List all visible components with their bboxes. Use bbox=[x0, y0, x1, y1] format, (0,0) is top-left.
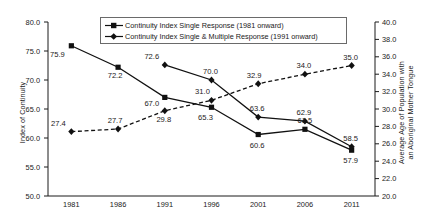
right-axis-tick-label: 34.0 bbox=[382, 70, 408, 79]
right-axis-tick-label: 38.0 bbox=[382, 35, 408, 44]
right-axis-tick-label: 22.0 bbox=[382, 174, 408, 183]
data-point-label: 62.9 bbox=[291, 108, 317, 117]
right-axis-tick-label: 26.0 bbox=[382, 139, 408, 148]
legend-item-single-response[interactable]: Continuity Index Single Response (1981 o… bbox=[104, 20, 343, 31]
right-axis-tick-label: 30.0 bbox=[382, 105, 408, 114]
x-axis-tick-label: 1991 bbox=[145, 200, 185, 209]
x-axis-tick-label: 1996 bbox=[192, 200, 232, 209]
x-axis-tick-label: 1986 bbox=[98, 200, 138, 209]
left-axis-tick-label: 80.0 bbox=[14, 18, 40, 27]
data-point-label: 70.0 bbox=[198, 67, 224, 76]
x-axis-tick-label: 1981 bbox=[51, 200, 91, 209]
data-point-label: 63.6 bbox=[244, 104, 270, 113]
left-axis-tick-label: 55.0 bbox=[14, 163, 40, 172]
data-point-label: 31.0 bbox=[190, 87, 216, 96]
legend-label-single-response: Continuity Index Single Response (1981 o… bbox=[125, 21, 284, 30]
series-layer bbox=[68, 43, 354, 153]
data-point-label: 60.6 bbox=[244, 141, 270, 150]
left-axis-ticks bbox=[44, 22, 48, 196]
right-axis-tick-label: 40.0 bbox=[382, 18, 408, 27]
data-point-label: 34.0 bbox=[291, 61, 317, 70]
chart-container: Index of Continuity Average Age of Popul… bbox=[0, 0, 430, 220]
data-point-label: 67.0 bbox=[139, 99, 165, 108]
x-axis-tick-label: 2011 bbox=[332, 200, 372, 209]
right-axis-tick-label: 32.0 bbox=[382, 87, 408, 96]
data-point-label: 27.4 bbox=[45, 119, 71, 128]
x-axis-tick-label: 2006 bbox=[285, 200, 325, 209]
legend-label-single-multiple-response: Continuity Index Single & Multiple Respo… bbox=[125, 32, 318, 41]
data-point-label: 27.7 bbox=[102, 116, 128, 125]
right-axis-tick-label: 24.0 bbox=[382, 157, 408, 166]
right-axis-tick-label: 28.0 bbox=[382, 122, 408, 131]
legend-item-single-multiple-response[interactable]: Continuity Index Single & Multiple Respo… bbox=[104, 31, 343, 42]
x-axis-tick-label: 2001 bbox=[238, 200, 278, 209]
right-axis-tick-label: 20.0 bbox=[382, 192, 408, 201]
left-axis-tick-label: 50.0 bbox=[14, 192, 40, 201]
legend-marker-square-icon bbox=[104, 21, 124, 30]
left-axis-tick-label: 65.0 bbox=[14, 105, 40, 114]
data-point-label: 72.2 bbox=[102, 71, 128, 80]
data-point-label: 58.5 bbox=[338, 134, 364, 143]
data-point-label: 57.9 bbox=[338, 156, 364, 165]
data-point-label: 35.0 bbox=[338, 53, 364, 62]
left-axis-tick-label: 70.0 bbox=[14, 76, 40, 85]
data-point-label: 32.9 bbox=[241, 71, 267, 80]
legend-marker-diamond-icon bbox=[104, 32, 124, 41]
right-axis-tick-label: 36.0 bbox=[382, 52, 408, 61]
data-point-label: 75.9 bbox=[44, 50, 70, 59]
legend: Continuity Index Single Response (1981 o… bbox=[100, 17, 347, 44]
data-point-label: 72.6 bbox=[139, 52, 165, 61]
right-axis-ticks bbox=[375, 22, 379, 196]
left-axis-tick-label: 75.0 bbox=[14, 47, 40, 56]
data-point-label: 61.5 bbox=[292, 116, 318, 125]
data-point-label: 65.3 bbox=[193, 113, 219, 122]
left-axis-tick-label: 60.0 bbox=[14, 134, 40, 143]
data-point-label: 29.8 bbox=[151, 115, 177, 124]
